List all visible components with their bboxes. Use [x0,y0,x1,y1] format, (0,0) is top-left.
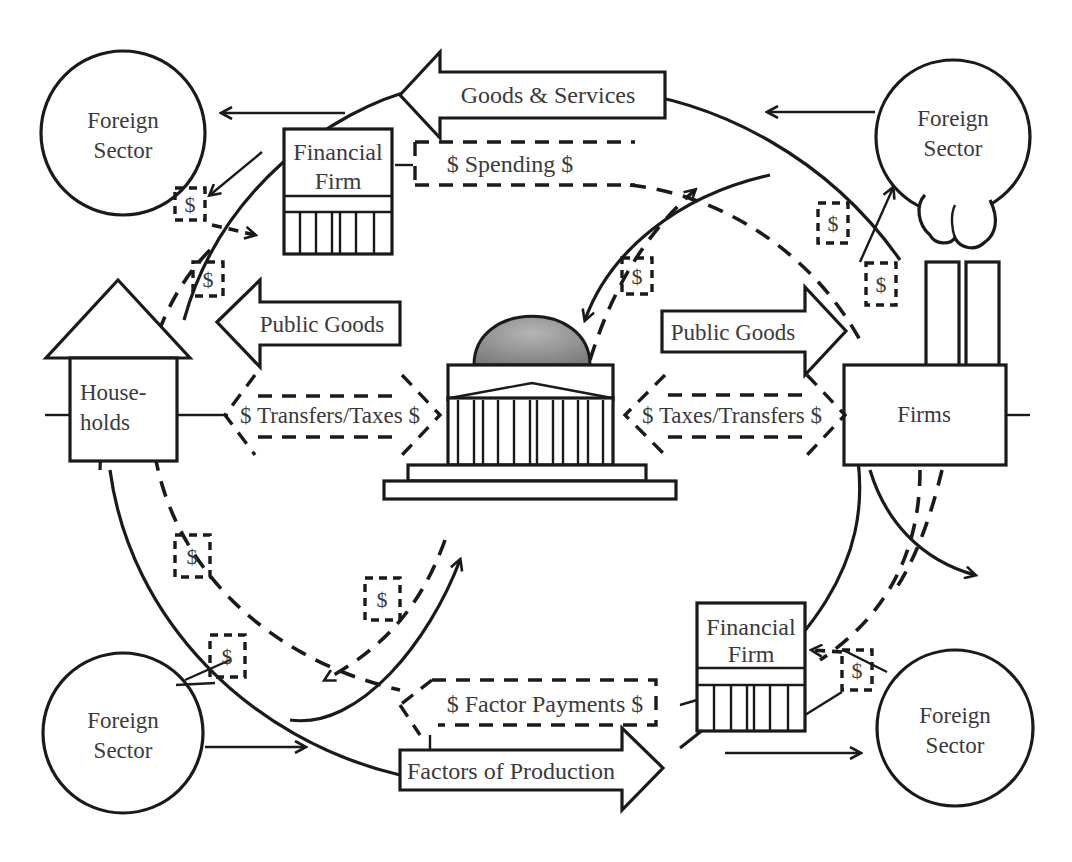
svg-text:$: $ [828,211,839,236]
svg-text:$ Spending $: $ Spending $ [447,151,574,177]
factory-smoke-icon [919,195,995,248]
svg-text:Sector: Sector [94,138,153,163]
financial-firm-bottom: Financial Firm [697,603,805,731]
svg-text:$: $ [377,587,388,612]
svg-text:Firm: Firm [315,168,362,194]
foreign-sector-top-left: Foreign Sector [41,51,205,215]
svg-text:House-: House- [80,380,146,405]
spending-money-flow: $ Spending $ [395,142,635,185]
firms-node: Firms [844,262,1030,465]
factory-chimney-icon [966,262,999,367]
money-tag: $ [175,535,210,577]
households-node: House- holds [45,280,218,461]
svg-text:$: $ [187,544,198,569]
svg-text:Foreign: Foreign [87,708,159,733]
money-tag: $ [866,263,896,305]
svg-text:Firm: Firm [728,641,775,667]
svg-text:Foreign: Foreign [917,106,989,131]
government-node [384,316,676,499]
svg-text:$: $ [632,264,643,289]
svg-text:$: $ [203,267,214,292]
svg-text:$ Factor Payments $: $ Factor Payments $ [447,691,644,717]
svg-text:Public Goods: Public Goods [260,312,385,337]
taxes-transfers-money-flow: $ Taxes/Transfers $ [625,375,845,455]
factors-of-production-arrow: Factors of Production [400,728,663,810]
svg-text:Public Goods: Public Goods [671,320,796,345]
factor-payments-money-flow: $ Factor Payments $ [400,680,697,735]
svg-text:$: $ [222,644,233,669]
money-tag: $ [818,203,848,243]
svg-text:Financial: Financial [706,614,796,640]
goods-services-arrow: Goods & Services [400,52,665,138]
svg-text:Sector: Sector [926,733,985,758]
svg-text:$ Transfers/Taxes $: $ Transfers/Taxes $ [240,403,420,428]
money-tag: $ [365,578,400,620]
capitol-dome-icon [474,316,590,365]
public-goods-right-arrow: Public Goods [662,287,846,375]
svg-text:holds: holds [80,410,130,435]
transfers-taxes-money-flow: $ Transfers/Taxes $ [218,375,440,455]
house-roof-icon [46,280,190,358]
svg-text:Foreign: Foreign [919,703,991,728]
svg-text:Sector: Sector [94,738,153,763]
svg-text:$: $ [185,192,196,217]
public-goods-left-arrow: Public Goods [217,280,400,367]
svg-text:Foreign: Foreign [87,108,159,133]
svg-text:Goods & Services: Goods & Services [461,82,636,108]
svg-text:$: $ [852,658,863,683]
factory-chimney-icon [926,262,959,367]
foreign-sector-bottom-left: Foreign Sector [43,653,203,813]
financial-firm-top: Financial Firm [284,129,392,254]
svg-text:$: $ [876,272,887,297]
svg-text:Sector: Sector [924,136,983,161]
svg-text:Financial: Financial [293,139,383,165]
foreign-sector-top-right: Foreign Sector [876,60,1030,214]
foreign-sector-bottom-right: Foreign Sector [877,650,1033,806]
svg-text:Factors of Production: Factors of Production [407,758,615,784]
money-tag: $ [210,635,245,677]
svg-text:$ Taxes/Transfers $: $ Taxes/Transfers $ [642,403,822,428]
circular-flow-diagram: Foreign Sector Foreign Sector Foreign Se… [0,0,1072,862]
svg-text:Firms: Firms [897,402,951,427]
